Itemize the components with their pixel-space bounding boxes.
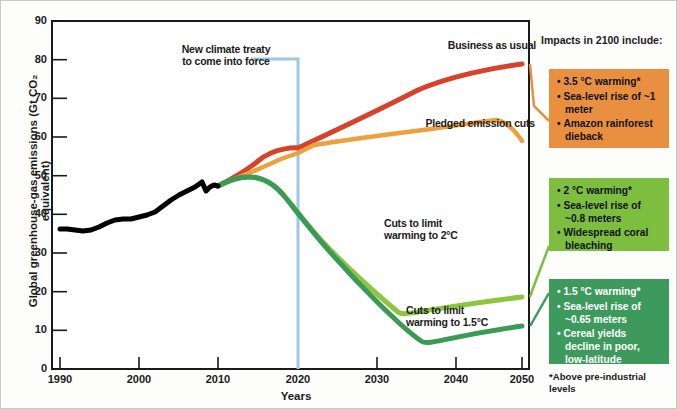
x-tick-1990: 1990 <box>35 373 85 385</box>
x-tick-2000: 2000 <box>114 373 164 385</box>
x-tick-2030: 2030 <box>352 373 402 385</box>
x-axis-title: Years <box>266 390 326 402</box>
list-item: Sea-level rise of ~0.8 meters <box>557 200 662 226</box>
impacts-heading: Impacts in 2100 include: <box>541 34 662 46</box>
y-tick-10: 10 <box>21 323 47 335</box>
callout-dark-green-list: 1.5 °C warming* Sea-level rise of ~0.65 … <box>557 286 662 379</box>
annotation-pledged-emission-cuts: Pledged emission cuts <box>420 117 535 129</box>
list-item: Amazon rainforest dieback <box>557 118 662 144</box>
y-tick-90: 90 <box>21 14 47 26</box>
callout-orange-list: 3.5 °C warming* Sea-level rise of ~1 met… <box>557 76 662 144</box>
x-tick-2050: 2050 <box>497 373 547 385</box>
callout-dark-green-15c: 1.5 °C warming* Sea-level rise of ~0.65 … <box>549 279 669 364</box>
footnote: *Above pre-industrial levels <box>549 371 675 394</box>
list-item: Widespread coral bleaching <box>557 227 662 253</box>
x-tick-2040: 2040 <box>431 373 481 385</box>
callout-orange-35c: 3.5 °C warming* Sea-level rise of ~1 met… <box>549 69 669 148</box>
callout-light-green-list: 2 °C warming* Sea-level rise of ~0.8 met… <box>557 185 662 253</box>
list-item: 3.5 °C warming* <box>557 76 662 89</box>
x-tick-2010: 2010 <box>193 373 243 385</box>
annotation-cuts-15c: Cuts to limit warming to 1.5°C <box>406 304 521 329</box>
callout-light-green-2c: 2 °C warming* Sea-level rise of ~0.8 met… <box>549 178 669 251</box>
list-item: 1.5 °C warming* <box>557 286 662 299</box>
annotation-cuts-2c: Cuts to limit warming to 2°C <box>384 217 494 242</box>
figure-container: 90 80 70 60 50 40 30 20 10 0 1990 2000 2… <box>0 0 677 409</box>
list-item: 2 °C warming* <box>557 185 662 198</box>
y-axis-title: Global greenhouse-gas emissions (Gt CO₂ … <box>27 61 51 321</box>
annotation-new-climate-treaty: New climate treaty to come into force <box>161 43 291 68</box>
annotation-business-as-usual: Business as usual <box>431 39 536 51</box>
x-tick-2020: 2020 <box>273 373 323 385</box>
list-item: Sea-level rise of ~0.65 meters <box>557 301 662 327</box>
list-item: Sea-level rise of ~1 meter <box>557 91 662 117</box>
